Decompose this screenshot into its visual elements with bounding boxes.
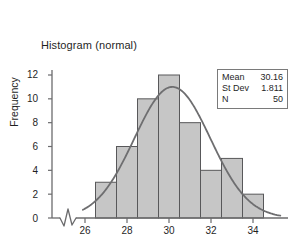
stats-row-n: N 50 bbox=[222, 94, 283, 105]
stats-row-mean: Mean 30.16 bbox=[222, 72, 283, 83]
axis-break-zigzag bbox=[60, 209, 76, 226]
histogram-chart: Histogram (normal) Frequency 12 10 8 6 4… bbox=[0, 0, 302, 248]
histogram-bar bbox=[201, 170, 222, 218]
stats-row-stdev: St Dev 1.811 bbox=[222, 83, 283, 94]
plot-area bbox=[0, 0, 302, 248]
stats-label-stdev: St Dev bbox=[222, 83, 253, 94]
histogram-bar bbox=[138, 99, 159, 218]
stats-value-mean: 30.16 bbox=[260, 72, 283, 83]
histogram-bar bbox=[96, 182, 117, 218]
stats-value-stdev: 1.811 bbox=[261, 83, 283, 94]
histogram-bar bbox=[180, 123, 201, 218]
stats-value-n: 50 bbox=[273, 94, 283, 105]
stats-label-n: N bbox=[222, 94, 233, 105]
stats-legend-box: Mean 30.16 St Dev 1.811 N 50 bbox=[217, 69, 288, 109]
stats-label-mean: Mean bbox=[222, 72, 249, 83]
histogram-bar bbox=[117, 147, 138, 219]
histogram-bar bbox=[159, 75, 180, 218]
